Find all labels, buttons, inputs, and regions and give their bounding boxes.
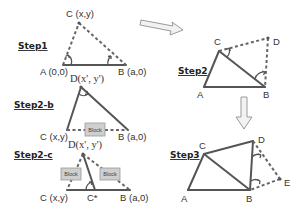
step3-label: Step3	[170, 150, 200, 160]
step1-label-b: B (a,0)	[118, 66, 147, 77]
step3-point-e	[278, 177, 281, 180]
step2c-label-d: D(x', y')	[68, 139, 103, 151]
step3-label-a: A	[181, 193, 188, 204]
step2c-label-cstar: C*	[87, 192, 98, 203]
step3-edge-cd	[204, 141, 253, 154]
step2-label: Step2	[178, 66, 208, 76]
step2-angle-b-arrow-icon	[262, 71, 265, 75]
step2b-edge-cd	[67, 87, 81, 130]
step3-edge-eb	[250, 179, 280, 190]
down-arrow-icon	[236, 97, 252, 129]
step2b-label-b: B (a,0)	[118, 131, 147, 142]
step2c-label-c: C (x,y)	[40, 192, 68, 203]
step1-point-c	[77, 21, 80, 24]
step1-diagram: Step1 C (x,y) A (0,0) B (a,0)	[18, 8, 147, 77]
step2c-point-d	[81, 152, 84, 155]
step1-label-c: C (x,y)	[66, 8, 94, 19]
step3-angle-b-arrow-icon	[257, 180, 260, 185]
step2c-label-b: B (a,0)	[120, 192, 149, 203]
diagram-canvas: Step1 C (x,y) A (0,0) B (a,0) Step2-b D(…	[0, 0, 302, 211]
step2c-block-right-label: Block	[103, 171, 117, 177]
step2-point-d	[266, 36, 269, 39]
step3-diagram: Step3 C D E A B	[170, 134, 290, 204]
step2b-point-d	[79, 85, 82, 88]
step2-diagram: Step2 C D A B	[178, 36, 280, 100]
step3-label-c: C	[199, 140, 206, 151]
step2b-label: Step2-b	[14, 100, 54, 110]
step2c-label: Step2-c	[14, 150, 53, 160]
step2-label-a: A	[197, 89, 204, 100]
step2c-block-left-label: Block	[64, 171, 78, 177]
step2-label-d: D	[273, 36, 280, 47]
step2-edge-cb	[219, 51, 265, 87]
step2c-diagram: Step2-c D(x', y') Block Block C (x,y) C*…	[14, 139, 149, 203]
step3-angle-d-arrow-icon	[258, 154, 261, 158]
step3-edge-cb	[204, 154, 250, 190]
step2-angle-c-arrow-icon	[227, 48, 231, 51]
step3-label-b: B	[246, 193, 252, 204]
step2-edge-db	[265, 38, 268, 87]
step1-label: Step1	[18, 41, 48, 51]
step2b-diagram: Step2-b D(x', y') Block C (x,y) B (a,0)	[14, 73, 147, 142]
step2b-label-c: C (x,y)	[40, 131, 68, 142]
step2-label-c: C	[214, 36, 221, 47]
step2-label-b: B	[263, 89, 269, 100]
step2c-angle-cstar-icon	[86, 182, 92, 190]
step2b-label-d: D(x', y')	[70, 73, 105, 85]
step2-angle-b-icon	[255, 72, 265, 79]
step3-label-e: E	[284, 177, 290, 188]
step2b-block-label: Block	[88, 127, 102, 133]
step3-edge-db	[250, 141, 253, 190]
step3-label-d: D	[258, 134, 265, 145]
step1-label-a: A (0,0)	[40, 66, 68, 77]
step3-edge-de	[253, 141, 280, 179]
step1-edge-cb	[79, 23, 126, 65]
right-arrow-icon	[140, 20, 183, 35]
